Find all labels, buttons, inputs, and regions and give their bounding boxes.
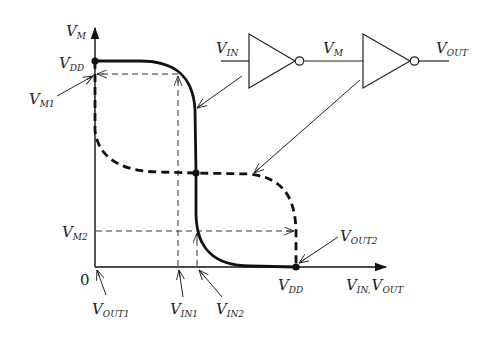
vin1-pointer	[179, 270, 183, 297]
circuit-vm-label: VM	[323, 39, 344, 58]
vdd-y-point	[91, 57, 98, 64]
inverter-2	[363, 34, 410, 88]
vout2-label: VOUT2	[340, 227, 378, 246]
inverter-1	[249, 34, 295, 88]
vout2-pointer	[299, 237, 338, 263]
inverter-2-bubble	[410, 57, 418, 65]
switching-point	[192, 169, 199, 176]
first-inverter-pointer	[197, 76, 242, 108]
vm1-label: VM1	[29, 90, 55, 109]
pointer-arrows	[57, 76, 360, 297]
inverter-1-bubble	[295, 57, 303, 65]
vm2-label: VM2	[62, 223, 88, 242]
circuit-vout-label: VOUT	[436, 39, 469, 58]
inverter-chain	[221, 34, 449, 88]
vm1-pointer	[57, 76, 93, 96]
vdd-y-label: VDD	[59, 54, 84, 73]
origin-label: 0	[80, 271, 90, 289]
vin1-label: VIN1	[170, 300, 198, 319]
vdd-x-point	[292, 263, 299, 270]
first-inverter-curve	[95, 61, 296, 267]
vout1-label: VOUT1	[92, 300, 130, 319]
circuit-vin-label: VIN	[216, 39, 239, 58]
vdd-x-label: VDD	[278, 276, 303, 295]
inverter-vtc-diagram: VM VDD VM1 VM2 0 VOUT1 VIN1 VIN2 VDD VOU…	[0, 0, 496, 344]
x-axis-label: VIN,VOUT	[346, 276, 404, 295]
y-axis-label: VM	[66, 22, 87, 41]
vout1-pointer	[97, 270, 106, 295]
vin2-pointer	[199, 270, 222, 297]
second-inverter-pointer	[254, 80, 360, 173]
vin2-label: VIN2	[216, 300, 244, 319]
